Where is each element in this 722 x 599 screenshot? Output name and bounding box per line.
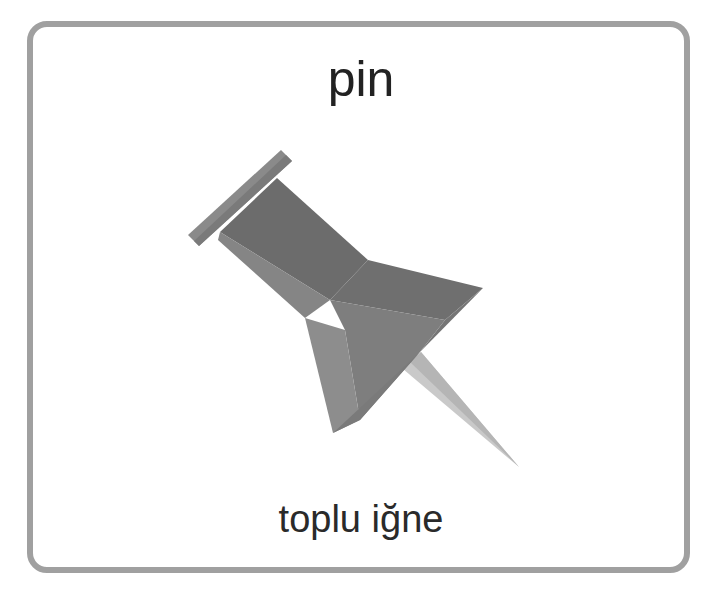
card-translation: toplu iğne bbox=[0, 500, 722, 538]
